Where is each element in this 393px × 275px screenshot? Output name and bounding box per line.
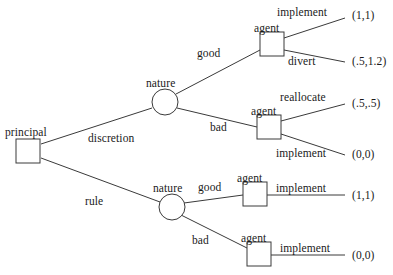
node-label-nature-bot: nature: [153, 183, 182, 195]
edge-label-e-divert: divert: [288, 56, 315, 68]
node-agent-rbad: [247, 242, 271, 266]
node-label-agent-rgood: agent: [237, 173, 262, 185]
edge-label-e-reallocate: reallocate: [280, 92, 326, 104]
node-agent-bad: [257, 115, 281, 139]
payoff-payoff-5: (1,1): [352, 190, 375, 202]
edge-e-reallocate: [281, 104, 345, 121]
payoff-payoff-1: (1,1): [352, 10, 375, 22]
node-nature-top: [152, 89, 178, 115]
nodes-layer: [16, 32, 284, 266]
edge-label-e-implement2: implement: [276, 148, 326, 160]
edge-label-e-bad-bot: bad: [192, 235, 209, 247]
payoff-payoff-2: (.5,1.2): [352, 56, 386, 68]
edge-label-e-good-bot: good: [198, 182, 221, 194]
edge-e-implement1: [284, 18, 345, 38]
edge-label-e-bad-top: bad: [210, 122, 227, 134]
edge-e-good-bot: [184, 195, 243, 203]
node-label-agent-good: agent: [254, 23, 279, 35]
edge-label-e-good-top: good: [197, 48, 220, 60]
edge-label-e-rule: rule: [85, 196, 103, 208]
edge-label-e-discretion: discretion: [88, 133, 134, 145]
game-tree-diagram: discretionrulegoodbadimplementdivertreal…: [0, 0, 393, 275]
edge-label-e-implement1: implement: [277, 7, 327, 19]
payoff-payoff-3: (.5,.5): [352, 98, 380, 110]
edge-e-bad-bot: [181, 215, 247, 248]
node-agent-rgood: [243, 182, 267, 206]
node-label-agent-rbad: agent: [241, 233, 266, 245]
node-label-nature-top: nature: [146, 78, 175, 90]
node-label-agent-bad: agent: [251, 106, 276, 118]
edge-label-e-implement3: implement: [276, 183, 326, 195]
payoff-payoff-4: (0,0): [352, 149, 375, 161]
node-label-principal: principal: [5, 127, 47, 139]
node-nature-bot: [159, 194, 185, 220]
payoff-payoff-6: (0,0): [352, 250, 375, 262]
node-principal: [16, 139, 40, 163]
edges-layer: [41, 18, 345, 255]
edge-label-e-implement4: implement: [280, 243, 330, 255]
node-agent-good: [260, 32, 284, 56]
